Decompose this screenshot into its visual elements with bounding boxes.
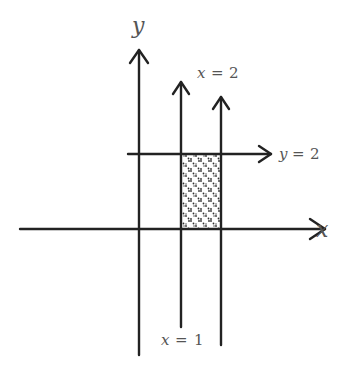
y-axis-label: y [131, 13, 145, 38]
svg-text:=: = [175, 331, 188, 349]
svg-text:2: 2 [310, 145, 320, 163]
svg-text:=: = [292, 145, 305, 163]
diagram-canvas: x y x = 2 y = 2 x = 1 [0, 0, 352, 377]
svg-text:=: = [211, 64, 224, 82]
x-axis-label: x [316, 217, 329, 242]
svg-text:x: x [197, 64, 206, 82]
label-x-equals-2: x = 2 [197, 64, 239, 82]
svg-text:y: y [278, 145, 288, 163]
shaded-region [182, 155, 220, 229]
svg-text:2: 2 [229, 64, 239, 82]
svg-text:1: 1 [194, 331, 204, 349]
label-y-equals-2: y = 2 [278, 145, 320, 163]
x-axis [20, 219, 325, 239]
label-x-equals-1: x = 1 [161, 331, 204, 349]
svg-text:x: x [161, 331, 170, 349]
y-axis [130, 50, 148, 355]
